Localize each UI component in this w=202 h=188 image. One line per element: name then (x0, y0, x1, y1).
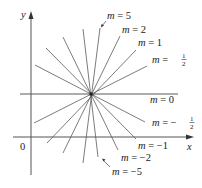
slope-label: m = 5 (107, 10, 131, 21)
slope-label: m = −5 (112, 166, 142, 177)
line-m-1 (47, 50, 136, 143)
y-axis-label: y (20, 9, 26, 20)
slope-family-diagram: x y 0 m = 5m = 2m = 1m = 12m = 0m = −12m… (0, 0, 202, 188)
center-point (89, 92, 93, 96)
slope-label: m = 2 (122, 24, 146, 35)
fraction-denominator: 2 (190, 123, 194, 131)
fraction-numerator: 1 (190, 115, 194, 123)
leader-m-5-arrow-icon (102, 159, 106, 162)
y-axis-arrow-icon (29, 11, 34, 19)
slope-label: m = − (152, 117, 177, 128)
slope-label: m = 0 (150, 94, 174, 105)
x-axis-arrow-icon (186, 135, 194, 140)
slope-label: m = −2 (121, 152, 151, 163)
slope-label: m = (152, 54, 168, 65)
fraction-numerator: 1 (182, 52, 186, 60)
leader-m-5 (103, 160, 110, 167)
x-axis-label: x (186, 141, 192, 152)
slope-label: m = 1 (138, 37, 162, 48)
slope-label: m = −1 (138, 140, 168, 151)
fraction-denominator: 2 (182, 60, 186, 68)
origin-label: 0 (20, 141, 25, 152)
